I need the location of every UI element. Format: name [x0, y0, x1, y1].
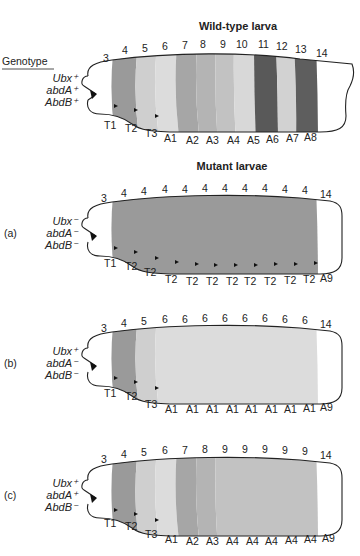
- panel-label-b: (b): [4, 357, 17, 369]
- svg-text:10: 10: [236, 38, 248, 50]
- svg-text:A4: A4: [226, 535, 239, 547]
- svg-text:T2: T2: [125, 122, 137, 134]
- svg-text:4: 4: [121, 317, 127, 329]
- wildtype-title: Wild-type larva: [199, 20, 278, 32]
- genotype-ubx: Ubx⁺: [52, 72, 79, 84]
- svg-text:4: 4: [162, 183, 168, 195]
- svg-text:T1: T1: [104, 257, 116, 269]
- svg-text:4: 4: [262, 182, 268, 194]
- svg-text:T2: T2: [284, 274, 296, 286]
- svg-text:13: 13: [295, 43, 307, 55]
- svg-text:A1: A1: [226, 403, 239, 415]
- svg-text:6: 6: [242, 312, 248, 324]
- svg-text:T2: T2: [244, 275, 256, 287]
- svg-text:9: 9: [282, 444, 288, 456]
- svg-text:4: 4: [182, 183, 188, 195]
- svg-text:4: 4: [242, 182, 248, 194]
- svg-text:A2: A2: [186, 535, 199, 547]
- svg-text:9: 9: [262, 443, 268, 455]
- svg-text:4: 4: [121, 448, 127, 460]
- svg-text:6: 6: [182, 313, 188, 325]
- svg-text:A1: A1: [206, 403, 219, 415]
- svg-text:T2: T2: [206, 275, 218, 287]
- wildtype-genotype: Ubx⁺ abdA⁺ AbdB⁺: [44, 72, 79, 108]
- svg-text:A1: A1: [165, 403, 178, 415]
- svg-text:A1: A1: [245, 403, 258, 415]
- svg-text:A1: A1: [164, 132, 177, 144]
- svg-text:6: 6: [162, 444, 168, 456]
- genotype-header: Genotype: [2, 55, 48, 67]
- panel-label-a: (a): [4, 227, 17, 239]
- svg-text:Ubx⁻: Ubx⁻: [52, 215, 79, 227]
- mutant-c: (c) Ubx⁺ abdA⁺ AbdB⁻ 3 4 5 6 7 8 9: [4, 443, 342, 548]
- svg-text:T1: T1: [104, 517, 116, 529]
- svg-text:T2: T2: [125, 390, 137, 402]
- svg-text:12: 12: [276, 40, 288, 52]
- svg-text:A4: A4: [304, 533, 317, 545]
- panel-label-c: (c): [4, 489, 16, 501]
- svg-text:6: 6: [302, 314, 308, 326]
- svg-text:T3: T3: [145, 528, 157, 540]
- svg-text:9: 9: [302, 445, 308, 457]
- svg-text:A3: A3: [206, 134, 219, 146]
- svg-text:5: 5: [141, 315, 147, 327]
- svg-text:A4: A4: [246, 535, 259, 547]
- svg-text:A3: A3: [206, 535, 219, 547]
- svg-text:14: 14: [320, 449, 332, 461]
- genotype-abdb: AbdB⁺: [44, 96, 79, 108]
- svg-text:14: 14: [320, 318, 332, 330]
- svg-text:T2: T2: [125, 260, 137, 272]
- svg-text:AbdB⁻: AbdB⁻: [44, 239, 79, 251]
- svg-text:T2: T2: [264, 275, 276, 287]
- svg-text:5: 5: [142, 42, 148, 54]
- svg-text:3: 3: [101, 322, 107, 334]
- hox-mutant-diagram: Wild-type larva Genotype Ubx⁺ abdA⁺ AbdB…: [0, 0, 360, 556]
- svg-text:abdA⁻: abdA⁻: [46, 227, 79, 239]
- svg-text:T1: T1: [104, 387, 116, 399]
- svg-text:8: 8: [202, 443, 208, 455]
- svg-text:T2: T2: [165, 273, 177, 285]
- svg-text:A5: A5: [247, 134, 260, 146]
- svg-text:4: 4: [202, 182, 208, 194]
- svg-text:T2: T2: [226, 275, 238, 287]
- svg-text:abdA⁻: abdA⁻: [46, 357, 79, 369]
- svg-text:4: 4: [222, 182, 228, 194]
- svg-text:3: 3: [103, 52, 109, 64]
- svg-text:A7: A7: [286, 132, 299, 144]
- svg-text:6: 6: [202, 312, 208, 324]
- svg-text:8: 8: [200, 38, 206, 50]
- mutant-b: (b) Ubx⁺ abdA⁻ AbdB⁻ 3 4 5 6 6 6 6 6 6 6: [4, 312, 342, 416]
- svg-text:A9: A9: [320, 401, 333, 413]
- svg-text:4: 4: [302, 184, 308, 196]
- svg-text:A1: A1: [284, 403, 297, 415]
- svg-text:abdA⁺: abdA⁺: [46, 489, 79, 501]
- svg-text:Ubx⁺: Ubx⁺: [52, 345, 79, 357]
- svg-text:T3: T3: [145, 127, 157, 139]
- svg-text:A1: A1: [165, 533, 178, 545]
- svg-text:T2: T2: [186, 275, 198, 287]
- mutant-title: Mutant larvae: [197, 160, 268, 172]
- svg-text:AbdB⁻: AbdB⁻: [44, 501, 79, 513]
- wildtype-larva: [80, 44, 360, 144]
- svg-text:14: 14: [320, 188, 332, 200]
- svg-text:9: 9: [242, 443, 248, 455]
- svg-text:A4: A4: [265, 535, 278, 547]
- svg-text:T2: T2: [125, 520, 137, 532]
- svg-text:14: 14: [316, 47, 328, 59]
- svg-text:A6: A6: [266, 133, 279, 145]
- svg-text:6: 6: [162, 40, 168, 52]
- svg-text:3: 3: [101, 192, 107, 204]
- svg-text:3: 3: [101, 453, 107, 465]
- svg-text:11: 11: [258, 38, 269, 50]
- svg-text:6: 6: [162, 313, 168, 325]
- svg-text:5: 5: [141, 446, 147, 458]
- svg-text:A1: A1: [265, 403, 278, 415]
- svg-text:T2: T2: [144, 266, 156, 278]
- svg-text:T3: T3: [145, 398, 157, 410]
- svg-text:AbdB⁻: AbdB⁻: [44, 369, 79, 381]
- svg-text:A8: A8: [304, 131, 317, 143]
- svg-text:Ubx⁺: Ubx⁺: [52, 477, 79, 489]
- svg-text:9: 9: [220, 38, 226, 50]
- svg-text:9: 9: [222, 443, 228, 455]
- svg-text:A4: A4: [285, 534, 298, 546]
